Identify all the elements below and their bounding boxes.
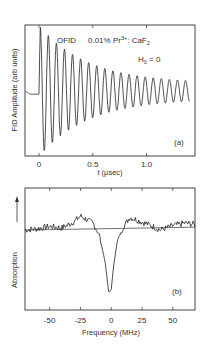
sample-label: 0.01% Pr3+: CaF2 [88, 35, 150, 46]
panel-b: (b) -50-2502550 Frequency (MHz) Absorpti… [10, 188, 195, 337]
panel-b-label: (b) [172, 287, 182, 296]
x-tick-label: 0 [109, 316, 114, 325]
panel-a-y-axis-label: FID Amplitude (arb units) [10, 48, 19, 131]
panel-a-label: (a) [174, 138, 184, 147]
x-tick-label: 1.0 [141, 160, 153, 169]
absorption-arrow-icon [15, 196, 19, 222]
x-tick-label: -50 [44, 316, 56, 325]
panel-a-x-axis-label: t (μsec) [97, 168, 123, 177]
fid-curve [26, 27, 190, 150]
field-label: H0 = 0 [138, 55, 161, 65]
panel-b-y-axis-label: Absorption [10, 252, 19, 288]
method-label: OFID [57, 36, 76, 45]
panel-b-x-axis-label: Frequency (MHz) [82, 328, 140, 337]
x-tick-label: 0 [37, 160, 42, 169]
x-tick-label: 50 [168, 316, 177, 325]
panel-a: OFID 0.01% Pr3+: CaF2 H0 = 0 (a) 00.51.0… [10, 25, 195, 177]
panel-a-x-tick-labels: 00.51.0 [37, 160, 153, 169]
figure: OFID 0.01% Pr3+: CaF2 H0 = 0 (a) 00.51.0… [0, 0, 206, 356]
absorption-curve [25, 214, 195, 292]
panel-b-x-ticks [50, 188, 173, 310]
panel-b-x-tick-labels: -50-2502550 [44, 316, 178, 325]
x-tick-label: 25 [138, 316, 147, 325]
x-tick-label: -25 [75, 316, 87, 325]
baseline-line [25, 227, 195, 230]
